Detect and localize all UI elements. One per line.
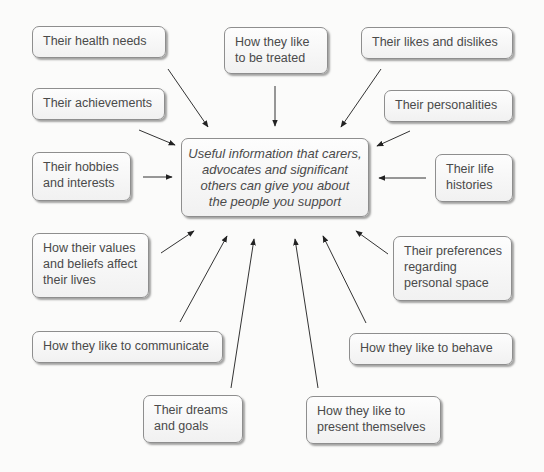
node-likes-dislikes: Their likes and dislikes: [361, 27, 513, 59]
arrow-dreams: [231, 239, 254, 388]
center-node: Useful information that carers, advocate…: [181, 138, 369, 217]
arrow-likes: [341, 69, 381, 127]
node-behave: How they like to behave: [349, 333, 513, 365]
arrow-present: [295, 239, 318, 388]
arrow-achievements: [139, 130, 175, 145]
node-health-needs: Their health needs: [32, 26, 166, 58]
node-communicate: How they like to communicate: [32, 331, 223, 363]
arrow-communicate: [180, 236, 227, 322]
arrow-space: [356, 231, 388, 254]
node-personalities: Their personalities: [384, 90, 513, 122]
node-personal-space: Their preferences regarding personal spa…: [393, 236, 512, 301]
node-life-histories: Their life histories: [435, 154, 513, 202]
node-how-treated: How they like to be treated: [224, 27, 328, 74]
node-present-themselves: How they like to present themselves: [306, 396, 441, 444]
arrow-health: [168, 69, 208, 127]
arrow-values: [161, 231, 194, 253]
arrow-behave: [323, 236, 366, 323]
arrow-personalities: [377, 131, 410, 146]
node-values-beliefs: How their values and beliefs affect thei…: [32, 233, 149, 298]
node-dreams-goals: Their dreams and goals: [143, 395, 243, 443]
node-hobbies-interests: Their hobbies and interests: [32, 152, 131, 201]
node-achievements: Their achievements: [32, 88, 165, 120]
